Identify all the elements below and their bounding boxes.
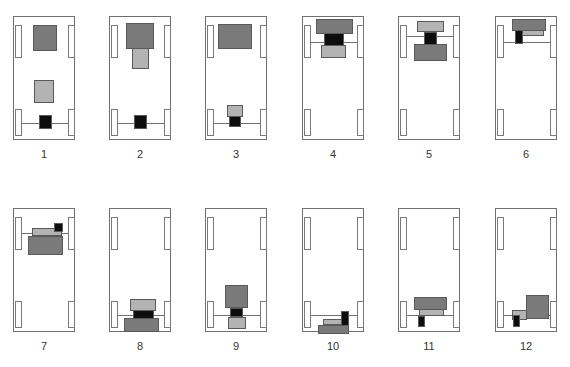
- wheel-bottom-right: [453, 109, 460, 136]
- panel-label: 6: [495, 148, 557, 160]
- panel-label: 11: [398, 340, 460, 352]
- diagram-panel-9: [205, 208, 267, 332]
- wheel-bottom-left: [497, 109, 504, 136]
- wheel-top-right: [164, 25, 171, 58]
- wheel-top-left: [207, 217, 214, 250]
- panel-label: 12: [495, 340, 557, 352]
- light-block: [34, 80, 54, 103]
- wheel-bottom-right: [68, 109, 75, 136]
- figure-stage: 123456789101112: [0, 0, 570, 367]
- wheel-top-left: [304, 217, 311, 250]
- diagram-panel-3: [205, 16, 267, 140]
- light-block: [417, 21, 444, 32]
- wheel-top-right: [357, 217, 364, 250]
- wheel-top-right: [68, 25, 75, 58]
- light-block: [321, 45, 346, 58]
- diagram-panel-8: [109, 208, 171, 332]
- wheel-top-left: [15, 25, 22, 58]
- wheel-top-left: [400, 25, 407, 58]
- wheel-top-left: [207, 25, 214, 58]
- wheel-top-right: [164, 217, 171, 250]
- diagram-panel-1: [13, 16, 75, 140]
- wheel-bottom-left: [15, 109, 22, 136]
- light-block: [227, 105, 243, 117]
- wheel-bottom-right: [357, 301, 364, 328]
- wheel-top-right: [550, 25, 557, 58]
- dark-block: [28, 236, 63, 255]
- wheel-bottom-left: [111, 109, 118, 136]
- black-block: [134, 115, 147, 129]
- wheel-top-right: [260, 25, 267, 58]
- light-block: [419, 309, 444, 316]
- wheel-top-right: [550, 217, 557, 250]
- wheel-bottom-left: [400, 109, 407, 136]
- wheel-bottom-left: [497, 301, 504, 328]
- diagram-panel-12: [495, 208, 557, 332]
- black-block: [418, 316, 425, 327]
- panel-label: 7: [13, 340, 75, 352]
- black-block: [39, 115, 52, 129]
- panel-label: 8: [109, 340, 171, 352]
- wheel-bottom-left: [304, 301, 311, 328]
- axle-line: [311, 315, 357, 316]
- wheel-top-left: [497, 217, 504, 250]
- dark-block: [414, 44, 447, 61]
- black-block: [229, 116, 241, 127]
- wheel-top-left: [400, 217, 407, 250]
- wheel-top-left: [15, 217, 22, 250]
- wheel-bottom-right: [260, 109, 267, 136]
- wheel-top-left: [497, 25, 504, 58]
- wheel-bottom-left: [207, 301, 214, 328]
- light-block: [228, 317, 246, 329]
- light-block: [132, 47, 149, 69]
- dark-block: [318, 325, 349, 334]
- black-block: [341, 311, 349, 326]
- diagram-panel-7: [13, 208, 75, 332]
- diagram-panel-11: [398, 208, 460, 332]
- panel-label: 3: [205, 148, 267, 160]
- wheel-bottom-right: [550, 301, 557, 328]
- wheel-top-left: [111, 217, 118, 250]
- wheel-bottom-right: [453, 301, 460, 328]
- black-block: [54, 223, 63, 232]
- diagram-panel-2: [109, 16, 171, 140]
- axle-line: [504, 42, 550, 43]
- dark-block: [126, 23, 154, 49]
- dark-block: [225, 285, 248, 308]
- panel-label: 9: [205, 340, 267, 352]
- panel-label: 1: [13, 148, 75, 160]
- dark-block: [124, 318, 159, 332]
- wheel-top-right: [357, 25, 364, 58]
- wheel-bottom-left: [15, 301, 22, 328]
- wheel-bottom-right: [164, 301, 171, 328]
- dark-block: [218, 24, 252, 49]
- dark-block: [526, 295, 549, 319]
- panel-label: 10: [302, 340, 364, 352]
- dark-block: [33, 25, 57, 51]
- wheel-top-right: [260, 217, 267, 250]
- wheel-bottom-left: [111, 301, 118, 328]
- panel-label: 4: [302, 148, 364, 160]
- wheel-bottom-right: [164, 109, 171, 136]
- diagram-panel-4: [302, 16, 364, 140]
- panel-label: 5: [398, 148, 460, 160]
- black-block: [515, 30, 523, 44]
- wheel-top-right: [68, 217, 75, 250]
- wheel-bottom-left: [400, 301, 407, 328]
- wheel-bottom-right: [550, 109, 557, 136]
- black-block: [513, 315, 520, 327]
- wheel-bottom-right: [357, 109, 364, 136]
- dark-block: [316, 19, 353, 34]
- black-block: [324, 33, 344, 46]
- dark-block: [414, 297, 447, 310]
- wheel-bottom-left: [304, 109, 311, 136]
- wheel-bottom-right: [68, 301, 75, 328]
- diagram-panel-5: [398, 16, 460, 140]
- wheel-top-right: [453, 25, 460, 58]
- wheel-top-right: [453, 217, 460, 250]
- wheel-top-left: [111, 25, 118, 58]
- wheel-top-left: [304, 25, 311, 58]
- wheel-bottom-left: [207, 109, 214, 136]
- panel-label: 2: [109, 148, 171, 160]
- black-block: [230, 308, 243, 317]
